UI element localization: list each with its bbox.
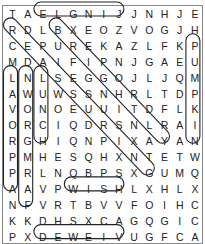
grid-cell[interactable]: J bbox=[127, 6, 142, 22]
grid-cell[interactable]: E bbox=[157, 149, 172, 165]
grid-cell[interactable]: R bbox=[5, 22, 20, 38]
grid-cell[interactable]: U bbox=[51, 38, 66, 54]
grid-cell[interactable]: U bbox=[81, 101, 96, 117]
grid-cell[interactable]: H bbox=[157, 181, 172, 197]
grid-cell[interactable]: E bbox=[35, 6, 50, 22]
grid-cell[interactable]: W bbox=[66, 181, 81, 197]
grid-cell[interactable]: S bbox=[66, 213, 81, 229]
grid-cell[interactable]: X bbox=[111, 149, 126, 165]
grid-cell[interactable]: Z bbox=[127, 38, 142, 54]
grid-cell[interactable]: P bbox=[5, 165, 20, 181]
grid-cell[interactable]: L bbox=[5, 70, 20, 86]
grid-cell[interactable]: W bbox=[51, 86, 66, 102]
grid-cell[interactable]: N bbox=[20, 70, 35, 86]
grid-cell[interactable]: E bbox=[66, 70, 81, 86]
grid-cell[interactable]: J bbox=[172, 6, 187, 22]
grid-cell[interactable]: G bbox=[142, 229, 157, 244]
grid-cell[interactable]: H bbox=[187, 22, 202, 38]
grid-cell[interactable]: N bbox=[51, 165, 66, 181]
grid-cell[interactable]: E bbox=[172, 54, 187, 70]
grid-cell[interactable]: R bbox=[96, 117, 111, 133]
grid-cell[interactable]: G bbox=[96, 70, 111, 86]
grid-cell[interactable]: T bbox=[172, 149, 187, 165]
grid-cell[interactable]: Q bbox=[187, 165, 202, 181]
grid-cell[interactable]: I bbox=[51, 117, 66, 133]
grid-cell[interactable]: C bbox=[172, 229, 187, 244]
grid-cell[interactable]: A bbox=[172, 117, 187, 133]
grid-cell[interactable]: F bbox=[157, 229, 172, 244]
grid-cell[interactable]: R bbox=[20, 117, 35, 133]
grid-cell[interactable]: R bbox=[51, 197, 66, 213]
grid-cell[interactable]: R bbox=[157, 117, 172, 133]
grid-cell[interactable]: O bbox=[51, 101, 66, 117]
grid-cell[interactable]: N bbox=[111, 54, 126, 70]
grid-cell[interactable]: F bbox=[20, 197, 35, 213]
grid-cell[interactable]: H bbox=[96, 149, 111, 165]
grid-cell[interactable]: L bbox=[142, 38, 157, 54]
grid-cell[interactable]: C bbox=[96, 213, 111, 229]
grid-cell[interactable]: P bbox=[187, 86, 202, 102]
grid-cell[interactable]: D bbox=[20, 54, 35, 70]
grid-cell[interactable]: W bbox=[20, 86, 35, 102]
grid-cell[interactable]: R bbox=[5, 133, 20, 149]
grid-cell[interactable]: D bbox=[142, 101, 157, 117]
grid-cell[interactable]: H bbox=[157, 6, 172, 22]
grid-cell[interactable]: P bbox=[96, 133, 111, 149]
grid-cell[interactable]: A bbox=[111, 38, 126, 54]
grid-cell[interactable]: X bbox=[20, 229, 35, 244]
grid-cell[interactable]: J bbox=[127, 54, 142, 70]
grid-cell[interactable]: I bbox=[81, 181, 96, 197]
grid-cell[interactable]: H bbox=[35, 149, 50, 165]
grid-cell[interactable]: S bbox=[111, 165, 126, 181]
grid-cell[interactable]: L bbox=[35, 165, 50, 181]
grid-cell[interactable]: W bbox=[187, 149, 202, 165]
grid-cell[interactable]: N bbox=[5, 197, 20, 213]
grid-cell[interactable]: N bbox=[81, 6, 96, 22]
grid-cell[interactable]: I bbox=[96, 6, 111, 22]
grid-cell[interactable]: F bbox=[66, 54, 81, 70]
grid-cell[interactable]: G bbox=[127, 213, 142, 229]
grid-cell[interactable]: T bbox=[66, 197, 81, 213]
grid-cell[interactable]: R bbox=[66, 38, 81, 54]
grid-cell[interactable]: T bbox=[127, 101, 142, 117]
grid-cell[interactable]: S bbox=[66, 86, 81, 102]
grid-cell[interactable]: W bbox=[66, 229, 81, 244]
grid-cell[interactable]: Q bbox=[172, 70, 187, 86]
grid-cell[interactable]: C bbox=[35, 117, 50, 133]
grid-cell[interactable]: D bbox=[20, 22, 35, 38]
grid-cell[interactable]: E bbox=[81, 229, 96, 244]
grid-cell[interactable]: V bbox=[127, 22, 142, 38]
grid-cell[interactable]: N bbox=[127, 149, 142, 165]
grid-cell[interactable]: C bbox=[187, 213, 202, 229]
grid-cell[interactable]: J bbox=[127, 70, 142, 86]
grid-cell[interactable]: E bbox=[187, 6, 202, 22]
grid-cell[interactable]: N bbox=[35, 101, 50, 117]
grid-cell[interactable]: H bbox=[111, 181, 126, 197]
grid-cell[interactable]: T bbox=[142, 149, 157, 165]
grid-cell[interactable]: V bbox=[111, 197, 126, 213]
grid-cell[interactable]: D bbox=[81, 117, 96, 133]
grid-cell[interactable]: U bbox=[187, 54, 202, 70]
grid-cell[interactable]: G bbox=[66, 6, 81, 22]
grid-cell[interactable]: Y bbox=[157, 133, 172, 149]
grid-cell[interactable]: G bbox=[142, 54, 157, 70]
grid-cell[interactable]: B bbox=[81, 197, 96, 213]
grid-cell[interactable]: V bbox=[111, 229, 126, 244]
grid-cell[interactable]: R bbox=[20, 165, 35, 181]
grid-cell[interactable]: P bbox=[35, 38, 50, 54]
grid-cell[interactable]: D bbox=[35, 229, 50, 244]
grid-cell[interactable]: G bbox=[20, 133, 35, 149]
grid-cell[interactable]: C bbox=[5, 38, 20, 54]
grid-cell[interactable]: A bbox=[172, 133, 187, 149]
grid-cell[interactable]: A bbox=[20, 6, 35, 22]
grid-cell[interactable]: M bbox=[20, 149, 35, 165]
grid-cell[interactable]: L bbox=[51, 6, 66, 22]
grid-cell[interactable]: O bbox=[142, 197, 157, 213]
grid-cell[interactable]: Q bbox=[66, 165, 81, 181]
grid-cell[interactable]: X bbox=[127, 133, 142, 149]
grid-cell[interactable]: I bbox=[81, 54, 96, 70]
grid-cell[interactable]: O bbox=[111, 70, 126, 86]
grid-cell[interactable]: L bbox=[35, 22, 50, 38]
grid-cell[interactable]: U bbox=[35, 86, 50, 102]
grid-cell[interactable]: J bbox=[172, 22, 187, 38]
